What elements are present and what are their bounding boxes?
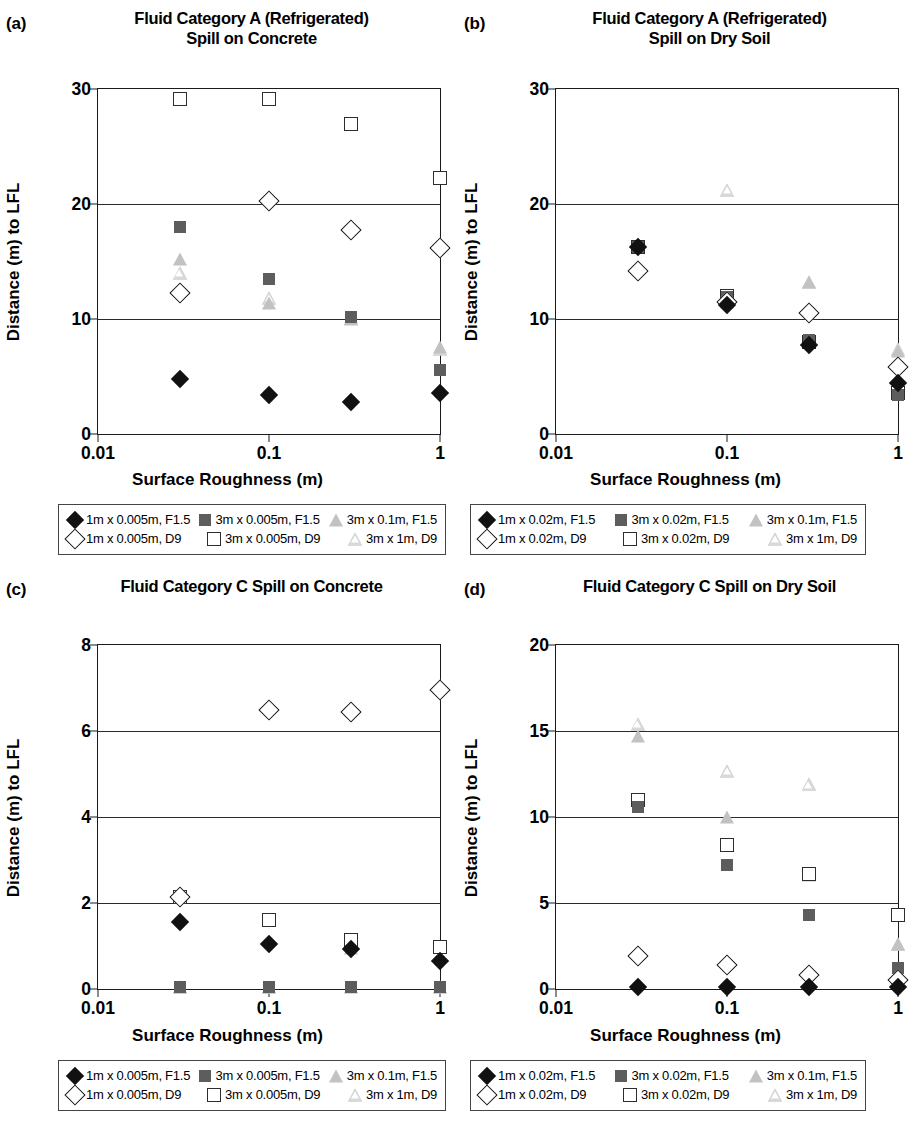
marker-square-o [344,117,358,131]
panel-b-plot-area: 01020300.010.11 [555,88,899,435]
marker-diamond-o [340,701,361,722]
y-tick-label: 20 [72,194,98,215]
panel-b-title-line2: Spill on Dry Soil [649,29,770,47]
legend-swatch-tri-o-icon [767,532,783,546]
legend-swatch-square-o-icon [622,1088,638,1102]
legend-item: 1m x 0.02m, F1.5 [479,1068,613,1083]
x-tick-label: 0.1 [715,443,739,464]
legend-swatch-square-f-icon [197,1069,213,1083]
marker-square-f [345,311,357,323]
x-tick-mark [727,434,728,442]
legend-item: 3m x 0.005m, D9 [206,531,347,546]
legend-label: 1m x 0.02m, D9 [498,531,586,546]
marker-diamond-o [340,220,361,241]
legend-item: 1m x 0.02m, F1.5 [479,512,613,527]
marker-diamond-o [258,699,279,720]
legend-swatch-diamond-o-icon [479,532,495,546]
marker-diamond-f [799,978,817,996]
gridline [556,731,898,732]
marker-diamond-f [431,383,449,401]
legend-item: 1m x 0.005m, F1.5 [67,1068,197,1083]
marker-square-f [632,801,644,813]
figure-root: (a) Fluid Category A (Refrigerated) Spil… [0,0,915,1132]
marker-tri-o [631,718,645,731]
legend-swatch-tri-o-icon [767,1088,783,1102]
marker-tri-f [329,513,343,526]
legend-label: 1m x 0.02m, F1.5 [498,1068,595,1083]
y-tick-label: 6 [81,721,98,742]
marker-diamond-o [627,946,648,967]
marker-diamond-f [478,1066,496,1084]
panel-c-y-axis-label: Distance (m) to LFL [4,688,24,948]
marker-square-o [891,908,905,922]
legend-item: 1m x 0.005m, D9 [67,1087,206,1102]
marker-square-o [623,1088,637,1102]
legend-label: 3m x 0.005m, F1.5 [216,1068,320,1083]
panel-b-x-axis-label: Surface Roughness (m) [458,470,913,490]
panel-b-tag: (b) [464,14,485,34]
marker-diamond-o [476,1084,497,1105]
marker-tri-f [720,811,734,824]
marker-diamond-o [64,1084,85,1105]
marker-diamond-f [66,1066,84,1084]
legend-label: 3m x 0.005m, F1.5 [216,512,320,527]
y-tick-label: 30 [530,79,556,100]
legend-item: 3m x 0.1m, F1.5 [748,1068,857,1083]
marker-diamond-f [431,952,449,970]
marker-square-o [262,913,276,927]
panel-a-title-line2: Spill on Concrete [186,29,317,47]
marker-diamond-f [478,510,496,528]
marker-tri-f [329,1069,343,1082]
marker-tri-o [802,778,816,791]
marker-diamond-o [64,528,85,549]
legend-item: 3m x 0.02m, F1.5 [613,1068,748,1083]
legend-label: 1m x 0.005m, F1.5 [86,1068,190,1083]
marker-diamond-o [476,528,497,549]
marker-square-f [615,514,627,526]
marker-tri-o [720,184,734,197]
legend-row: 1m x 0.02m, F1.53m x 0.02m, F1.53m x 0.1… [479,510,857,529]
x-tick-label: 0.01 [81,998,115,1019]
legend-item: 3m x 1m, D9 [347,1087,437,1102]
marker-square-f [174,221,186,233]
marker-diamond-f [260,386,278,404]
marker-square-o [207,532,221,546]
marker-square-o [623,532,637,546]
legend-label: 1m x 0.02m, F1.5 [498,512,595,527]
panel-d-tag: (d) [464,580,485,600]
marker-square-f [199,1070,211,1082]
legend-item: 1m x 0.005m, D9 [67,531,206,546]
legend-swatch-diamond-f-icon [479,1069,495,1083]
x-tick-label: 0.1 [257,998,281,1019]
panel-d: (d) Fluid Category C Spill on Dry Soil D… [458,566,913,1126]
legend-swatch-tri-o-icon [347,532,363,546]
marker-diamond-f [341,393,359,411]
y-tick-label: 2 [81,893,98,914]
marker-tri-f [749,513,763,526]
x-tick-mark [440,434,441,442]
legend-label: 3m x 1m, D9 [786,1087,857,1102]
marker-diamond-f [170,370,188,388]
marker-square-f [434,981,446,993]
y-tick-label: 0 [81,979,98,1000]
legend-swatch-diamond-o-icon [479,1088,495,1102]
legend-swatch-diamond-f-icon [67,1069,83,1083]
x-tick-label: 1 [435,443,445,464]
y-tick-label: 10 [530,807,556,828]
legend-swatch-tri-f-icon [748,1069,764,1083]
marker-diamond-f [628,978,646,996]
y-tick-label: 0 [81,424,98,445]
x-tick-label: 1 [893,998,903,1019]
legend-item: 3m x 0.005m, F1.5 [197,512,328,527]
legend-label: 1m x 0.02m, D9 [498,1087,586,1102]
x-tick-mark [269,434,270,442]
panel-a-tag: (a) [6,14,26,34]
x-tick-mark [98,989,99,997]
panel-a-x-axis-label: Surface Roughness (m) [0,470,455,490]
marker-square-f [615,1070,627,1082]
marker-diamond-o [798,303,819,324]
panel-b-title: Fluid Category A (Refrigerated) Spill on… [510,8,909,48]
y-tick-label: 10 [72,309,98,330]
marker-square-f [803,909,815,921]
marker-tri-o [768,532,782,545]
